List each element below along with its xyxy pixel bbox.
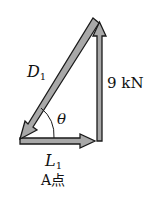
horizontal-arrow-L1 — [20, 134, 95, 148]
label-L1: L1 — [45, 153, 62, 171]
label-D1: D1 — [27, 64, 46, 82]
label-theta: θ — [57, 112, 66, 127]
vertical-arrow-9kN — [93, 22, 106, 141]
force-triangle-diagram — [0, 0, 156, 198]
label-9kN: 9 kN — [107, 76, 144, 91]
label-point-A: A点 — [41, 173, 65, 187]
